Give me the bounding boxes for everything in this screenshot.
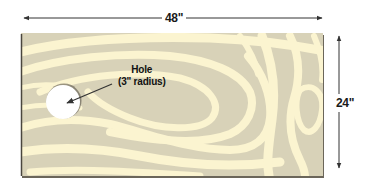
hole-label-radius: (3" radius) <box>118 76 166 88</box>
height-dimension-label: 24" <box>336 94 354 112</box>
width-dimension-label: 48" <box>162 11 186 25</box>
hole-label: Hole (3" radius) <box>118 64 166 88</box>
hole-label-title: Hole <box>118 64 166 76</box>
diagram-canvas <box>0 0 365 188</box>
cornhole-diagram: 48" 24" Hole (3" radius) <box>0 0 365 188</box>
